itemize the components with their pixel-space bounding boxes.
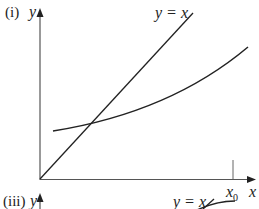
- figure-canvas: (i) y y = x x0 x (iii) y y = x: [0, 0, 259, 209]
- line-label: y = x: [155, 5, 188, 21]
- y-axis-iii-arrow-icon: [37, 193, 44, 202]
- x0-label: x0: [226, 184, 238, 203]
- x-axis-arrow-icon: [247, 176, 256, 183]
- graph-panel-i: [0, 0, 259, 209]
- x-axis-label: x: [249, 184, 256, 200]
- panel-label-iii: (iii): [3, 194, 26, 209]
- y-axis-arrow-icon: [37, 8, 44, 17]
- line-label-iii: y = x: [173, 194, 206, 209]
- x0-label-sub: 0: [233, 192, 238, 203]
- panel-label-i: (i): [5, 5, 19, 20]
- y-axis-label: y: [29, 4, 36, 20]
- y-axis-label-iii: y: [30, 193, 37, 209]
